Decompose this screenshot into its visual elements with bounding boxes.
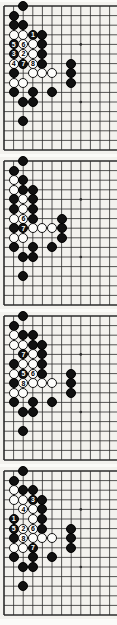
move-stone-8: 8 bbox=[18, 378, 28, 388]
black-stone bbox=[66, 78, 76, 88]
white-stone bbox=[47, 223, 57, 233]
figure-1: 15632478 bbox=[0, 2, 117, 154]
black-stone bbox=[66, 533, 76, 543]
black-stone bbox=[18, 466, 28, 476]
black-stone bbox=[18, 581, 28, 591]
black-stone bbox=[9, 552, 19, 562]
move-stone-2: 2 bbox=[18, 49, 28, 59]
move-stone-7: 7 bbox=[18, 59, 28, 69]
white-stone bbox=[47, 378, 57, 388]
black-stone bbox=[18, 311, 28, 321]
black-stone bbox=[28, 204, 38, 214]
black-stone bbox=[9, 397, 19, 407]
black-stone bbox=[18, 116, 28, 126]
black-stone bbox=[28, 485, 38, 495]
black-stone bbox=[37, 349, 47, 359]
white-stone bbox=[18, 78, 28, 88]
black-stone bbox=[9, 87, 19, 97]
black-stone bbox=[66, 68, 76, 78]
black-stone bbox=[28, 252, 38, 262]
black-stone bbox=[28, 397, 38, 407]
move-stone-7: 7 bbox=[18, 349, 28, 359]
black-stone bbox=[47, 397, 57, 407]
black-stone bbox=[47, 242, 57, 252]
black-stone bbox=[57, 233, 67, 243]
black-stone bbox=[47, 552, 57, 562]
move-stone-6: 6 bbox=[18, 39, 28, 49]
black-stone bbox=[57, 223, 67, 233]
black-stone bbox=[18, 1, 28, 11]
stone-layer: 15632478 bbox=[0, 2, 117, 154]
white-stone bbox=[37, 223, 47, 233]
stone-layer: 7568 bbox=[0, 312, 117, 464]
black-stone bbox=[47, 87, 57, 97]
black-stone bbox=[18, 97, 28, 107]
stone-layer: 67 bbox=[0, 157, 117, 309]
black-stone bbox=[28, 194, 38, 204]
black-stone bbox=[18, 175, 28, 185]
black-stone bbox=[28, 97, 38, 107]
black-stone bbox=[66, 378, 76, 388]
black-stone bbox=[18, 156, 28, 166]
black-stone bbox=[37, 39, 47, 49]
go-problem-page: 1563247867756834152687 bbox=[0, 0, 117, 625]
black-stone bbox=[18, 20, 28, 30]
black-stone bbox=[37, 49, 47, 59]
black-stone bbox=[18, 330, 28, 340]
move-stone-1: 1 bbox=[9, 514, 19, 524]
black-stone bbox=[9, 68, 19, 78]
black-stone bbox=[18, 485, 28, 495]
black-stone bbox=[66, 543, 76, 553]
figure-2: 67 bbox=[0, 157, 117, 309]
white-stone bbox=[47, 68, 57, 78]
black-stone bbox=[28, 87, 38, 97]
white-stone bbox=[47, 533, 57, 543]
white-stone bbox=[18, 204, 28, 214]
black-stone bbox=[9, 242, 19, 252]
black-stone bbox=[28, 407, 38, 417]
figure-4: 34152687 bbox=[0, 467, 117, 619]
move-stone-4: 4 bbox=[18, 504, 28, 514]
white-stone bbox=[18, 388, 28, 398]
black-stone bbox=[28, 552, 38, 562]
black-stone bbox=[37, 359, 47, 369]
white-stone bbox=[18, 543, 28, 553]
black-stone bbox=[28, 330, 38, 340]
black-stone bbox=[18, 562, 28, 572]
white-stone bbox=[37, 68, 47, 78]
white-stone bbox=[18, 359, 28, 369]
figure-3: 7568 bbox=[0, 312, 117, 464]
black-stone bbox=[37, 504, 47, 514]
white-stone bbox=[18, 194, 28, 204]
black-stone bbox=[37, 514, 47, 524]
move-stone-8: 8 bbox=[18, 533, 28, 543]
black-stone bbox=[18, 426, 28, 436]
black-stone bbox=[28, 242, 38, 252]
stone-layer: 34152687 bbox=[0, 467, 117, 619]
black-stone bbox=[18, 407, 28, 417]
white-stone bbox=[37, 533, 47, 543]
black-stone bbox=[18, 271, 28, 281]
black-stone bbox=[18, 252, 28, 262]
black-stone bbox=[28, 562, 38, 572]
white-stone bbox=[18, 233, 28, 243]
move-stone-7: 7 bbox=[18, 223, 28, 233]
black-stone bbox=[66, 388, 76, 398]
white-stone bbox=[37, 378, 47, 388]
